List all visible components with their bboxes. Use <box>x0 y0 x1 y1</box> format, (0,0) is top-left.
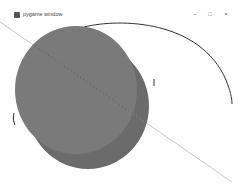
close-button[interactable]: × <box>221 10 231 19</box>
left-arc-tick <box>13 113 15 125</box>
window-title: pygame window <box>23 10 62 19</box>
maximize-button[interactable]: □ <box>205 10 215 19</box>
game-canvas[interactable] <box>0 20 241 187</box>
minimize-button[interactable]: – <box>190 10 200 19</box>
drawing-surface <box>0 20 241 187</box>
pygame-window: pygame window – □ × <box>0 0 241 187</box>
pygame-app-icon <box>14 12 20 18</box>
title-bar[interactable]: pygame window – □ × <box>0 0 241 22</box>
